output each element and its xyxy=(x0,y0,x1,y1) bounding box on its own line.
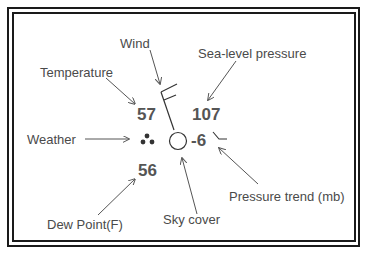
temperature-value: 57 xyxy=(137,106,156,123)
sky-cover-label: Sky cover xyxy=(163,213,220,226)
pressure-trend-symbol-icon xyxy=(213,132,227,139)
weather-label: Weather xyxy=(27,133,76,146)
dew-point-arrow xyxy=(98,179,135,215)
sea-level-pressure-value: 107 xyxy=(192,106,220,123)
dew-point-value: 56 xyxy=(138,162,157,179)
sky-cover-circle-icon xyxy=(170,133,187,150)
pressure-trend-arrow xyxy=(219,148,258,184)
dew-point-label: Dew Point(F) xyxy=(47,218,123,231)
wind-barb-icon xyxy=(161,84,177,130)
sea-level-pressure-label: Sea-level pressure xyxy=(198,47,306,60)
pressure-trend-label: Pressure trend (mb) xyxy=(229,190,345,203)
pressure-trend-value: -6 xyxy=(191,132,206,149)
weather-rain-dots-icon xyxy=(141,134,155,145)
temperature-label: Temperature xyxy=(40,66,113,79)
wind-arrow xyxy=(150,50,160,84)
sea-level-pressure-arrow xyxy=(208,61,236,100)
wind-label: Wind xyxy=(120,37,150,50)
temperature-arrow xyxy=(106,78,135,104)
sky-cover-arrow xyxy=(182,158,197,214)
